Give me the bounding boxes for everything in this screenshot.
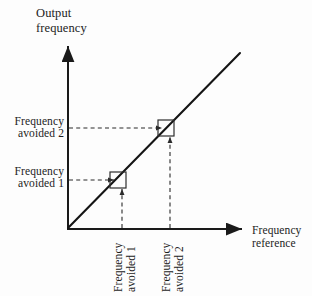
- unity-slope-line: [68, 53, 240, 228]
- y-tick-2-line1: Frequency: [0, 116, 64, 128]
- x-axis-title-line2: reference: [252, 237, 301, 250]
- y-tick-1-line2: avoided 1: [0, 178, 64, 190]
- x-tick-2-line2: avoided 2: [173, 243, 186, 292]
- x-axis-title: Frequency reference: [252, 224, 301, 249]
- y-tick-1-line1: Frequency: [0, 166, 64, 178]
- x-tick-1-line1: Frequency: [112, 243, 125, 292]
- diagram-canvas: [0, 0, 312, 296]
- x-tick-1-line2: avoided 1: [125, 243, 138, 292]
- response-line: [68, 53, 240, 228]
- y-tick-label-avoided-2: Frequency avoided 2: [0, 116, 64, 139]
- y-axis-title-line1: Output: [36, 6, 87, 21]
- y-axis-title: Output frequency: [36, 6, 87, 35]
- x-axis-title-line1: Frequency: [252, 224, 301, 237]
- projection-avoided-1: [69, 180, 122, 228]
- x-tick-2-line1: Frequency: [160, 243, 173, 292]
- x-tick-label-avoided-1: Frequency avoided 1: [112, 243, 137, 292]
- y-tick-label-avoided-1: Frequency avoided 1: [0, 166, 64, 189]
- x-tick-label-avoided-2: Frequency avoided 2: [160, 243, 185, 292]
- frequency-avoidance-diagram: Output frequency Frequency reference Fre…: [0, 0, 312, 296]
- y-axis-title-line2: frequency: [36, 21, 87, 36]
- y-tick-2-line2: avoided 2: [0, 128, 64, 140]
